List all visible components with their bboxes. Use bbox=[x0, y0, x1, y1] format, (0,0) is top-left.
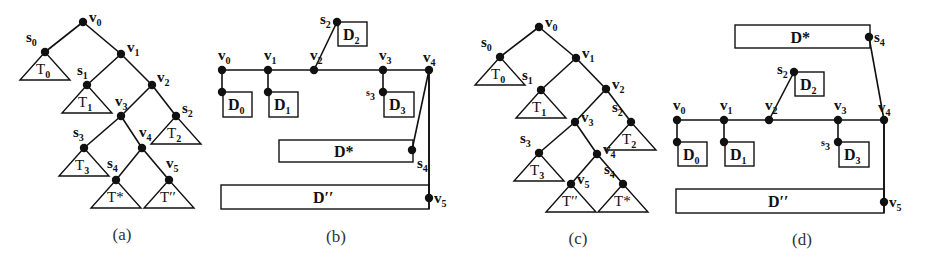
node-label-v5: v5 bbox=[434, 190, 447, 209]
tree-edge bbox=[539, 122, 575, 153]
tree-node-v4 bbox=[138, 144, 146, 152]
subtree-label: T* bbox=[107, 189, 124, 205]
tree-edge bbox=[84, 116, 121, 148]
tree-edge bbox=[45, 22, 83, 52]
panel-caption-a: (a) bbox=[113, 225, 132, 244]
tree-edge bbox=[575, 122, 597, 154]
tree-node-v3 bbox=[117, 112, 125, 120]
tree-node-v2 bbox=[602, 85, 610, 93]
tree-node-v5 bbox=[567, 180, 575, 188]
panel-caption-b: (b) bbox=[326, 227, 346, 246]
spine-node-v2 bbox=[765, 116, 773, 124]
tree-node-s1 bbox=[83, 81, 91, 89]
node-label-v5: v5 bbox=[166, 155, 179, 174]
node-label-s0: s0 bbox=[481, 34, 492, 53]
node-label-v2: v2 bbox=[765, 97, 778, 116]
node-label-s2: s2 bbox=[182, 100, 193, 119]
box-attach-node bbox=[264, 88, 272, 96]
panel-caption-c: (c) bbox=[569, 229, 588, 248]
node-label-v3: v3 bbox=[581, 109, 594, 128]
node-s4 bbox=[865, 33, 873, 41]
box-attach-node bbox=[218, 88, 226, 96]
spine-node-v1 bbox=[264, 66, 272, 74]
tree-node-s3 bbox=[535, 149, 543, 157]
spine-node-v0 bbox=[673, 116, 681, 124]
panel-caption-d: (d) bbox=[792, 230, 812, 249]
spine-node-v1 bbox=[720, 116, 728, 124]
tree-edge bbox=[87, 54, 121, 85]
node-label-s2: s2 bbox=[777, 61, 788, 80]
box-attach-node bbox=[673, 138, 681, 146]
node-label-v4: v4 bbox=[878, 99, 891, 118]
tree-edge bbox=[121, 54, 152, 85]
tree-node-s2 bbox=[172, 112, 180, 120]
tree-edge bbox=[152, 85, 176, 116]
tree-node-s4 bbox=[619, 180, 627, 188]
node-label-v3: v3 bbox=[379, 47, 392, 66]
subtree-label: T* bbox=[614, 193, 631, 209]
wide-box-label: D′′ bbox=[313, 189, 334, 206]
box-attach-node bbox=[834, 138, 842, 146]
box-attach-node bbox=[790, 68, 798, 76]
tree-node-v1 bbox=[117, 50, 125, 58]
node-s4 bbox=[408, 146, 416, 154]
node-label-v1: v1 bbox=[582, 45, 595, 64]
box-attach-node bbox=[720, 138, 728, 146]
tree-node-v5 bbox=[165, 176, 173, 184]
tree-node-s3 bbox=[80, 144, 88, 152]
wide-box-label: D* bbox=[334, 143, 354, 160]
tree-edge bbox=[541, 58, 576, 90]
tree-node-v0 bbox=[535, 23, 543, 31]
tree-node-s2 bbox=[627, 118, 635, 126]
tree-node-s1 bbox=[537, 86, 545, 94]
node-label-s4: s4 bbox=[604, 161, 615, 180]
spine-node-v3 bbox=[379, 66, 387, 74]
node-label-v2: v2 bbox=[310, 47, 323, 66]
node-label-s2: s2 bbox=[320, 11, 331, 30]
node-label-v0: v0 bbox=[218, 47, 231, 66]
node-label-v1: v1 bbox=[264, 47, 277, 66]
box-attach-node bbox=[333, 18, 341, 26]
tree-node-s0 bbox=[41, 48, 49, 56]
node-label-s3: s3 bbox=[366, 87, 375, 102]
node-label-v0: v0 bbox=[545, 14, 558, 33]
node-label-s3: s3 bbox=[821, 137, 830, 152]
node-label-v4: v4 bbox=[139, 124, 152, 143]
tree-edge bbox=[142, 148, 169, 180]
tree-node-v3 bbox=[571, 118, 579, 126]
node-label-v0: v0 bbox=[89, 9, 102, 28]
node-label-s3: s3 bbox=[73, 124, 84, 143]
figure-canvas: T0T1T2T3T*T′′v0s0v1s1v2v3s2s3v4s4v5(a) D… bbox=[0, 0, 933, 263]
tree-node-s4 bbox=[112, 176, 120, 184]
panel-c-tree: T0T1T2T3T′′T*v0s0v1s1v2v3s2s3v4v5s4(c) bbox=[475, 14, 656, 248]
subtree-label: T′′ bbox=[160, 189, 176, 205]
tree-node-v0 bbox=[79, 18, 87, 26]
node-label-v1: v1 bbox=[720, 97, 733, 116]
node-label-v2: v2 bbox=[157, 69, 170, 88]
box-attach-node bbox=[379, 88, 387, 96]
node-label-v0: v0 bbox=[673, 97, 686, 116]
tree-edge bbox=[539, 27, 576, 58]
panel-a-tree: T0T1T2T3T*T′′v0s0v1s1v2v3s2s3v4s4v5(a) bbox=[20, 9, 201, 244]
node-label-v3: v3 bbox=[834, 97, 847, 116]
spine-node-v0 bbox=[218, 66, 226, 74]
node-label-s1: s1 bbox=[77, 62, 88, 81]
panel-b-path-layout: D*D′′s4v5D0D1D3s3D2s2v0v1v2v3v4(b) bbox=[218, 11, 447, 246]
node-label-v4: v4 bbox=[423, 49, 436, 68]
node-label-v1: v1 bbox=[127, 39, 140, 58]
node-label-v5: v5 bbox=[889, 194, 902, 213]
tree-node-v2 bbox=[148, 81, 156, 89]
node-label-s4: s4 bbox=[417, 155, 428, 174]
node-label-v5: v5 bbox=[577, 171, 590, 190]
node-label-s4: s4 bbox=[874, 29, 885, 48]
panel-d-path-layout: D*D′′s4v5D0D1D3s3D2s2v0v1v2v3v4(d) bbox=[673, 25, 902, 249]
wide-box-label: D* bbox=[791, 29, 811, 46]
tree-node-s0 bbox=[496, 53, 504, 61]
tree-node-v4 bbox=[593, 150, 601, 158]
node-label-s2: s2 bbox=[612, 99, 623, 118]
tree-edge bbox=[83, 22, 121, 54]
tree-node-v1 bbox=[572, 54, 580, 62]
spine-node-v2 bbox=[310, 66, 318, 74]
node-label-s0: s0 bbox=[26, 29, 37, 48]
spine-node-v3 bbox=[834, 116, 842, 124]
